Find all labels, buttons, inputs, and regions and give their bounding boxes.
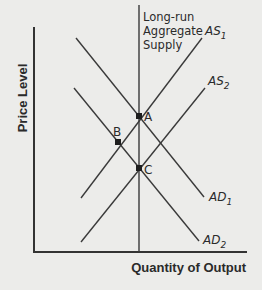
point-b-marker bbox=[115, 139, 121, 145]
ad2-curve bbox=[74, 88, 199, 241]
point-c-marker bbox=[136, 165, 142, 171]
as2-label: AS2 bbox=[207, 74, 230, 91]
point-c-label: C bbox=[144, 163, 152, 177]
point-a-label: A bbox=[144, 110, 153, 124]
svg-text:Long-run: Long-run bbox=[143, 10, 194, 24]
as1-label: AS1 bbox=[204, 24, 227, 41]
as-ad-diagram: Price Level Quantity of Output Long-run … bbox=[0, 0, 262, 290]
lras-label: Long-run Aggregate Supply bbox=[143, 10, 203, 52]
svg-text:Supply: Supply bbox=[143, 38, 182, 52]
ad2-label: AD2 bbox=[202, 233, 226, 250]
ad1-label: AD1 bbox=[208, 190, 232, 207]
svg-text:Aggregate: Aggregate bbox=[143, 24, 203, 38]
point-a-marker bbox=[136, 113, 142, 119]
x-axis-label: Quantity of Output bbox=[131, 260, 246, 275]
as2-curve bbox=[81, 88, 205, 242]
point-b-label: B bbox=[113, 125, 121, 139]
y-axis-label: Price Level bbox=[15, 64, 30, 133]
